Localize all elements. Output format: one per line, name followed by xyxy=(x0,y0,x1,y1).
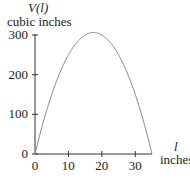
axes xyxy=(35,34,152,154)
y-axis-title: V(l) xyxy=(28,1,48,15)
data-curve xyxy=(35,33,152,154)
x-axis-units: inches xyxy=(160,153,190,167)
y-tick-label: 0 xyxy=(22,147,29,161)
y-tick-label: 300 xyxy=(9,28,29,42)
y-tick-label: 100 xyxy=(9,107,29,121)
x-tick-label: 30 xyxy=(129,159,142,173)
y-tick-label: 200 xyxy=(9,68,29,82)
x-tick-label: 20 xyxy=(95,159,108,173)
x-tick-label: 10 xyxy=(62,159,75,173)
x-tick-label: 0 xyxy=(32,159,39,173)
ticks xyxy=(32,35,135,157)
